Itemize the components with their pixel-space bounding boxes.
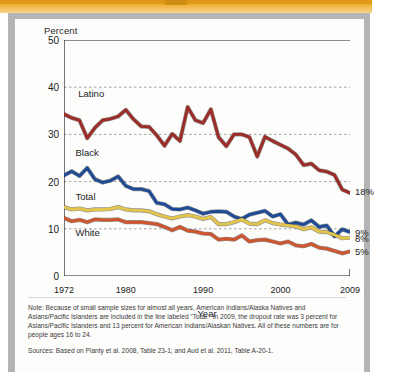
series-label-latino: Latino (78, 88, 104, 99)
x-tick-2000: 2000 (270, 285, 290, 295)
chart-area: Percent 0102030405019721980199020002009L… (18, 22, 363, 292)
x-tick-2009: 2009 (340, 285, 360, 295)
end-label-total: 8% (355, 232, 369, 243)
series-label-black: Black (75, 147, 98, 158)
y-tick-0: 0 (53, 271, 59, 282)
series-label-total: Total (75, 191, 95, 202)
plot-region: 0102030405019721980199020002009LatinoBla… (64, 40, 350, 276)
x-tick-1980: 1980 (116, 285, 136, 295)
y-tick-10: 10 (48, 223, 59, 234)
y-tick-50: 50 (48, 35, 59, 46)
end-label-white: 5% (355, 246, 369, 257)
x-tick-1972: 1972 (54, 285, 74, 295)
series-label-white: White (75, 227, 99, 238)
top-banner-notch (165, 0, 187, 5)
figure-page: Percent 0102030405019721980199020002009L… (0, 0, 402, 372)
sources-text: Sources: Based on Planty et al. 2008, Ta… (28, 346, 346, 355)
y-tick-30: 30 (48, 129, 59, 140)
notes-block: Note: Because of small sample sizes for … (28, 303, 346, 355)
y-tick-40: 40 (48, 82, 59, 93)
chart-svg (64, 40, 350, 276)
note-text: Note: Because of small sample sizes for … (28, 303, 346, 339)
end-label-latino: 18% (355, 186, 374, 197)
y-tick-20: 20 (48, 176, 59, 187)
notes-divider (28, 297, 346, 298)
x-tick-1990: 1990 (193, 285, 213, 295)
